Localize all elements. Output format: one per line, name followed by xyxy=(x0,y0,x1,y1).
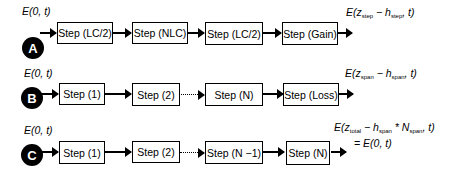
row-c-badge: C xyxy=(21,144,43,166)
row-c-step-2: Step (2) xyxy=(132,141,180,163)
dotted-arrow-icon xyxy=(181,94,204,95)
row-a-badge: A xyxy=(22,37,44,59)
row-b-step-4: Step (Loss) xyxy=(283,83,339,106)
arrow-icon xyxy=(263,32,281,34)
row-c-step-1: Step (1) xyxy=(59,141,105,164)
row-c-step-4: Step (N) xyxy=(286,141,330,165)
arrow-icon xyxy=(263,93,283,95)
row-c-step-3: Step (N −1) xyxy=(205,141,263,164)
arrow-icon xyxy=(40,93,58,95)
arrow-icon xyxy=(188,32,204,34)
arrow-icon xyxy=(339,93,353,95)
arrow-icon xyxy=(338,32,352,34)
row-b-input-label: E(0, t) xyxy=(24,67,53,79)
row-a-step-4: Step (Gain) xyxy=(282,22,338,45)
arrow-icon xyxy=(263,151,284,153)
row-c-input-label: E(0, t) xyxy=(24,124,53,136)
row-b-step-3: Step (N) xyxy=(205,83,263,106)
arrow-icon xyxy=(113,32,131,34)
row-a-input-label: E(0, t) xyxy=(22,5,51,17)
row-c-output-label: E(ztotal − hspan * Nspan, t) xyxy=(334,121,435,134)
row-b-step-1: Step (1) xyxy=(59,83,105,105)
arrow-icon xyxy=(331,151,346,153)
row-c-output-line2: = E(0, t) xyxy=(354,137,392,149)
arrow-icon xyxy=(105,93,131,95)
row-a-step-1: Step (LC/2) xyxy=(57,22,113,44)
row-a-step-2: Step (NLC) xyxy=(132,22,188,44)
row-a-step-3: Step (LC/2) xyxy=(205,22,263,45)
row-b-badge: B xyxy=(21,87,43,109)
arrow-icon xyxy=(40,151,58,153)
arrow-icon xyxy=(105,151,131,153)
arrow-icon xyxy=(40,32,56,34)
dotted-arrow-icon xyxy=(180,152,204,153)
row-b-step-2: Step (2) xyxy=(132,83,180,106)
row-b-output-label: E(zspan − hspan, t) xyxy=(345,67,417,80)
row-a-output-label: E(zstep − hstep, t) xyxy=(346,6,415,19)
